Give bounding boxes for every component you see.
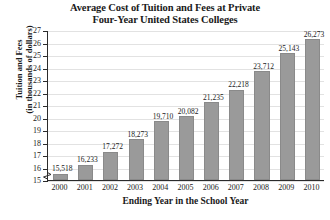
y-tick-label: 25 xyxy=(33,52,41,60)
x-tick-label: 2005 xyxy=(173,184,198,192)
y-tick-mark xyxy=(43,56,47,57)
bar-value-label: 21,235 xyxy=(203,94,224,102)
y-tick-mark xyxy=(43,181,47,182)
bar-item[interactable] xyxy=(305,30,320,180)
y-tick-mark xyxy=(43,44,47,45)
bar-value-label: 15,518 xyxy=(52,165,73,173)
x-tick-label: 2000 xyxy=(47,184,72,192)
bar[interactable] xyxy=(305,39,320,180)
gridline xyxy=(48,181,324,182)
bar-item[interactable] xyxy=(154,30,169,180)
y-tick-label: 17 xyxy=(33,152,41,160)
x-tick-label: 2009 xyxy=(274,184,299,192)
x-tick-label: 2004 xyxy=(148,184,173,192)
y-tick-mark xyxy=(43,81,47,82)
x-tick-label: 2010 xyxy=(299,184,324,192)
y-tick-mark xyxy=(43,156,47,157)
y-tick-label: 16 xyxy=(33,165,41,173)
bar-value-label: 26,273 xyxy=(304,31,325,39)
y-axis-title: Tuition and Fees (in thousands of dollar… xyxy=(15,0,34,140)
y-tick-label: 23 xyxy=(33,77,41,85)
y-tick-mark xyxy=(43,69,47,70)
x-tick-label: 2008 xyxy=(248,184,273,192)
x-tick-label: 2006 xyxy=(198,184,223,192)
x-tick-label: 2001 xyxy=(72,184,97,192)
bar-item[interactable] xyxy=(103,30,118,180)
bar-value-label: 19,710 xyxy=(153,113,174,121)
chart-title-line-2: Four-Year United States Colleges xyxy=(0,14,330,26)
y-tick-label: 18 xyxy=(33,140,41,148)
y-tick-label: 19 xyxy=(33,127,41,135)
bar-value-label: 22,218 xyxy=(228,81,249,89)
bar-chart: Average Cost of Tuition and Fees at Priv… xyxy=(0,0,330,220)
y-tick-mark xyxy=(43,131,47,132)
plot-area: 15161718192021222324252627 15,51816,2331… xyxy=(47,31,324,181)
bar-value-label: 17,272 xyxy=(102,143,123,151)
bar[interactable] xyxy=(103,152,118,180)
y-tick-label: 21 xyxy=(33,102,41,110)
y-tick-mark xyxy=(43,119,47,120)
y-tick-label: 15 xyxy=(33,177,41,185)
y-tick-mark xyxy=(43,31,47,32)
y-tick-label: 26 xyxy=(33,40,41,48)
bar[interactable] xyxy=(254,71,269,180)
y-tick-label: 20 xyxy=(33,115,41,123)
x-tick-label: 2002 xyxy=(97,184,122,192)
bar-value-label: 20,082 xyxy=(178,108,199,116)
bar-item[interactable] xyxy=(254,30,269,180)
bar-item[interactable] xyxy=(53,30,68,180)
bar[interactable] xyxy=(229,90,244,180)
bar-item[interactable] xyxy=(229,30,244,180)
bar-value-label: 25,143 xyxy=(279,45,300,53)
y-tick-label: 22 xyxy=(33,90,41,98)
bar[interactable] xyxy=(154,121,169,180)
bar-series: 15,51816,23317,27218,27319,71020,08221,2… xyxy=(48,31,324,180)
y-tick-label: 24 xyxy=(33,65,41,73)
x-axis-title: Ending Year in the School Year xyxy=(47,196,324,206)
y-tick-label: 27 xyxy=(33,27,41,35)
x-tick-label: 2003 xyxy=(123,184,148,192)
bar[interactable] xyxy=(129,139,144,180)
x-tick-label: 2007 xyxy=(223,184,248,192)
bar-item[interactable] xyxy=(129,30,144,180)
bar-item[interactable] xyxy=(204,30,219,180)
y-tick-mark xyxy=(43,94,47,95)
bar[interactable] xyxy=(204,102,219,180)
bar[interactable] xyxy=(78,165,93,180)
bar-item[interactable] xyxy=(179,30,194,180)
bar-value-label: 23,712 xyxy=(253,63,274,71)
bar[interactable] xyxy=(280,53,295,180)
bar-value-label: 18,273 xyxy=(127,131,148,139)
y-tick-mark xyxy=(43,169,47,170)
bar[interactable] xyxy=(53,174,68,180)
y-tick-mark xyxy=(43,106,47,107)
bar[interactable] xyxy=(179,116,194,180)
y-tick-mark xyxy=(43,144,47,145)
chart-title: Average Cost of Tuition and Fees at Priv… xyxy=(0,2,330,25)
chart-title-line-1: Average Cost of Tuition and Fees at Priv… xyxy=(0,2,330,14)
bar-value-label: 16,233 xyxy=(77,156,98,164)
